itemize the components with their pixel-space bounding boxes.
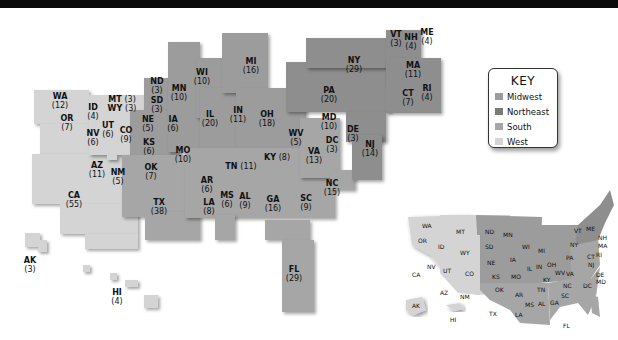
region-northeast-block	[286, 62, 391, 112]
inset-label-sc: SC	[561, 292, 569, 299]
hawaii-block	[125, 280, 138, 287]
state-label-me: ME(4)	[420, 28, 433, 46]
state-label-ar: AR(6)	[201, 176, 213, 194]
state-label-nc: NC(15)	[324, 179, 340, 197]
swatch-midwest	[495, 93, 503, 100]
state-label-wv: WV(5)	[288, 129, 303, 147]
region-south-block	[265, 220, 310, 240]
state-label-mt: MT (3)	[108, 95, 136, 104]
state-label-co: CO(9)	[120, 126, 133, 144]
inset-label-hi: HI	[450, 316, 456, 323]
state-label-ct: CT(7)	[402, 89, 413, 107]
us-outline-icon	[400, 185, 615, 325]
state-label-az: AZ(11)	[89, 161, 105, 179]
inset-label-nm: NM	[460, 293, 470, 300]
state-label-va: VA(13)	[306, 147, 322, 165]
inset-label-mi: MI	[538, 247, 545, 254]
state-label-ok: OK(7)	[145, 163, 158, 181]
state-label-pa: PA(20)	[321, 86, 337, 104]
state-label-in: IN(11)	[230, 106, 246, 124]
key-item-south: South	[495, 120, 557, 133]
state-label-ut: UT(6)	[102, 121, 114, 139]
inset-label-il: IL	[527, 265, 532, 272]
state-label-de: DE(3)	[347, 125, 359, 143]
state-label-wi: WI(10)	[194, 68, 210, 86]
state-label-wa: WA(12)	[52, 92, 68, 110]
region-west-block	[107, 155, 117, 160]
inset-label-id: ID	[438, 243, 444, 250]
state-label-la: LA(8)	[203, 198, 214, 216]
state-label-ga: GA(16)	[265, 195, 281, 213]
key-item-northeast: Northeast	[495, 105, 557, 118]
inset-label-ut: UT	[443, 267, 451, 274]
inset-label-al: AL	[538, 300, 545, 307]
state-label-sc: SC(9)	[300, 194, 312, 212]
us-reference-inset-map: WA OR CA ID NV MT WY UT CO AZ NM ND SD N…	[400, 185, 615, 325]
map-key-legend: KEY Midwest Northeast South West	[488, 68, 558, 148]
state-label-or: OR(7)	[61, 114, 74, 132]
inset-label-dc: DC	[583, 282, 592, 289]
key-item-west: West	[495, 135, 557, 148]
state-label-mi: MI(16)	[243, 57, 259, 75]
inset-label-nh: NH	[598, 234, 607, 241]
state-label-dc: DC(3)	[326, 136, 339, 154]
state-label-ny: NY(29)	[346, 56, 362, 74]
inset-label-mt: MT	[456, 228, 465, 235]
region-south-block	[215, 215, 235, 240]
state-label-sd: SD(3)	[151, 96, 163, 114]
state-label-mo: MO(10)	[175, 146, 191, 164]
inset-label-nd: ND	[485, 228, 494, 235]
inset-label-co: CO	[465, 270, 474, 277]
key-item-midwest: Midwest	[495, 90, 557, 103]
inset-label-nc: NC	[563, 282, 572, 289]
state-label-tx: TX(38)	[151, 198, 167, 216]
inset-label-ca: CA	[412, 271, 420, 278]
inset-label-in: IN	[536, 263, 542, 270]
inset-label-ne: NE	[487, 259, 495, 266]
inset-label-fl: FL	[563, 322, 570, 329]
state-label-nv: NV(6)	[87, 129, 100, 147]
inset-label-pa: PA	[566, 254, 573, 261]
inset-label-sd: SD	[485, 243, 493, 250]
state-label-ak: AK(3)	[24, 256, 36, 274]
inset-label-tn: TN	[537, 286, 545, 293]
state-label-mn: MN(10)	[171, 84, 187, 102]
inset-label-ok: OK	[495, 286, 504, 293]
inset-label-or: OR	[418, 237, 427, 244]
inset-label-ar: AR	[515, 291, 523, 298]
state-label-id: ID(4)	[87, 103, 98, 121]
inset-label-ri: RI	[596, 251, 602, 258]
state-label-nj: NJ(14)	[362, 140, 378, 158]
key-title: KEY	[489, 74, 557, 88]
swatch-northeast	[495, 108, 503, 115]
inset-label-ny: NY	[570, 241, 578, 248]
state-label-fl: FL(29)	[286, 265, 302, 283]
state-label-nd: ND(3)	[150, 77, 163, 95]
inset-label-va: VA	[566, 270, 574, 277]
state-label-oh: OH(18)	[259, 110, 275, 128]
state-label-ca: CA(55)	[66, 191, 82, 209]
hawaii-block	[110, 273, 117, 280]
state-label-ma: MA(11)	[405, 61, 421, 79]
state-label-ks: KS(6)	[143, 138, 155, 156]
alaska-block	[38, 240, 47, 252]
inset-label-ak: AK	[412, 302, 420, 309]
inset-label-de: DE	[596, 271, 604, 278]
inset-label-oh: OH	[547, 261, 556, 268]
inset-label-nv: NV	[427, 263, 436, 270]
state-label-ne: NE(5)	[142, 115, 154, 133]
state-label-il: IL(20)	[202, 110, 218, 128]
swatch-west	[495, 138, 503, 145]
state-label-vt: VT(3)	[390, 30, 402, 48]
state-label-ia: IA(6)	[167, 115, 178, 133]
inset-label-ia: IA	[510, 256, 516, 263]
state-label-hi: HI(4)	[111, 288, 122, 306]
inset-label-ct: CT	[587, 253, 595, 260]
inset-label-ma: MA	[598, 242, 607, 249]
state-label-md: MD(10)	[321, 113, 337, 131]
inset-label-wa: WA	[422, 222, 432, 229]
inset-label-nj: NJ	[588, 261, 594, 268]
state-label-nh: NH(4)	[404, 33, 417, 51]
inset-label-md: MD	[596, 278, 606, 285]
swatch-south	[495, 123, 503, 130]
